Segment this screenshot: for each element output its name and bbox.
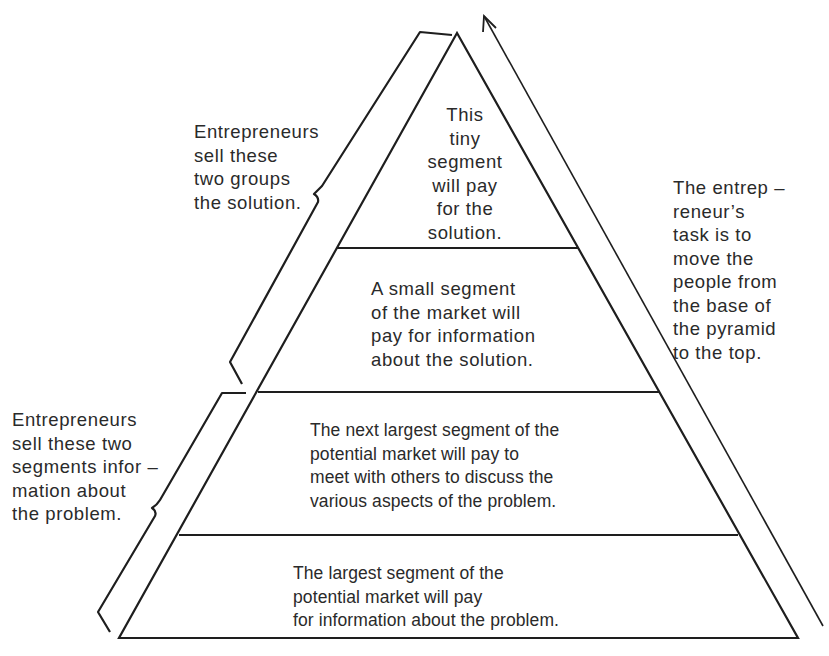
upper-bracket-annotation: Entrepreneurs sell these two groups the … [194, 120, 319, 214]
lower-bracket-annotation: Entrepreneurs sell these two segments in… [12, 408, 158, 526]
level-top-label: This tiny segment will pay for the solut… [405, 103, 525, 244]
level-third-label: The next largest segment of the potentia… [310, 419, 559, 513]
level-base-label: The largest segment of the potential mar… [293, 562, 559, 633]
arrow-annotation: The entrep – reneur’s task is to move th… [673, 176, 785, 364]
level-second-label: A small segment of the market will pay f… [371, 277, 536, 371]
